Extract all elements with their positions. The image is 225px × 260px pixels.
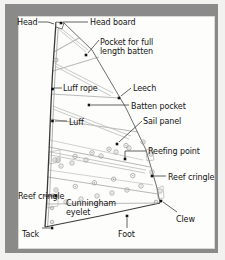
eyelet-core-8: [128, 147, 129, 148]
reef-eyelet-core-r0-2: [91, 152, 92, 153]
label-luff-rope: Luff rope: [63, 84, 98, 93]
reef-band-1: [48, 170, 153, 185]
label-reef-cringle-right: Reef cringle: [168, 173, 225, 182]
reef-eyelet-core-r0-5: [142, 141, 143, 142]
leader-endpoint-tack: [51, 227, 54, 230]
label-luff: Luff: [69, 118, 84, 127]
leader-endpoint-reefing-point: [124, 158, 127, 161]
eyelet-core-6: [159, 190, 160, 191]
eyelet-core-16: [111, 192, 112, 193]
leader-leech: [121, 88, 131, 96]
leader-endpoint-pocket-full-batten: [85, 54, 88, 57]
leader-endpoint-sail-panel: [116, 143, 119, 146]
reef-band-lines: [48, 140, 153, 185]
sail-seam-2: [51, 94, 120, 98]
leader-clew: [163, 202, 177, 212]
eyelet-core-12: [71, 162, 72, 163]
eyelet-core-13: [60, 165, 61, 166]
leader-endpoint-luff: [51, 120, 54, 123]
leader-endpoint-batten-pocket: [88, 104, 91, 107]
eyelet-core-3: [51, 207, 52, 208]
label-pocket-full-batten: Pocket for full length batten: [100, 38, 170, 56]
leader-pocket-full-batten: [88, 40, 99, 53]
label-head: Head: [17, 18, 38, 27]
batten-pocket-line-5: [53, 109, 129, 139]
eyelet-core-10: [100, 155, 101, 156]
leader-endpoint-reef-cringle-right: [151, 175, 154, 178]
label-sail-panel: Sail panel: [143, 117, 181, 126]
label-reefing-point: Reefing point: [148, 147, 200, 156]
eyelet-core-7: [155, 201, 156, 202]
leader-endpoint-luff-rope: [51, 88, 54, 91]
batten-pocket-line-6: [50, 152, 146, 170]
reef-eyelet-core-r0-3: [108, 149, 109, 150]
batten-pocket-line-0: [58, 26, 88, 50]
label-tack: Tack: [22, 230, 39, 239]
reef-eyelet-core-r0-1: [74, 156, 75, 157]
reef-eyelet-core-r1-3: [113, 179, 114, 180]
reef-eyelet-core-r1-2: [94, 182, 95, 183]
reef-eyelet-core-r1-5: [151, 171, 152, 172]
eyelet-core-0: [55, 59, 56, 60]
eyelet-core-9: [115, 151, 116, 152]
reef-eyelet-core-r1-4: [132, 175, 133, 176]
label-cunningham-eyelet: Cunningham eyelet: [66, 199, 136, 217]
eyelet-core-1: [54, 159, 55, 160]
label-leech: Leech: [133, 84, 156, 93]
leader-endpoint-head-board: [60, 22, 63, 25]
eyelet-core-15: [126, 189, 127, 190]
eyelet-core-4: [51, 221, 52, 222]
eyelet-core-11: [85, 159, 86, 160]
reef-eyelet-core-r1-1: [75, 186, 76, 187]
label-batten-pocket: Batten pocket: [131, 102, 186, 111]
reef-eyelet-core-r1-0: [55, 189, 56, 190]
eyelet-core-17: [96, 195, 97, 196]
reef-eyelet-core-r0-4: [125, 145, 126, 146]
label-foot: Foot: [118, 230, 135, 239]
eyelet-core-14: [140, 185, 141, 186]
leader-sail-panel: [119, 121, 142, 142]
leader-endpoint-leech: [118, 97, 121, 100]
leader-endpoint-clew: [160, 200, 163, 203]
label-head-board: Head board: [90, 18, 136, 27]
sail-diagram-figure: HeadHead boardPocket for full length bat…: [0, 0, 225, 260]
label-clew: Clew: [176, 215, 195, 224]
leader-head: [38, 22, 54, 24]
